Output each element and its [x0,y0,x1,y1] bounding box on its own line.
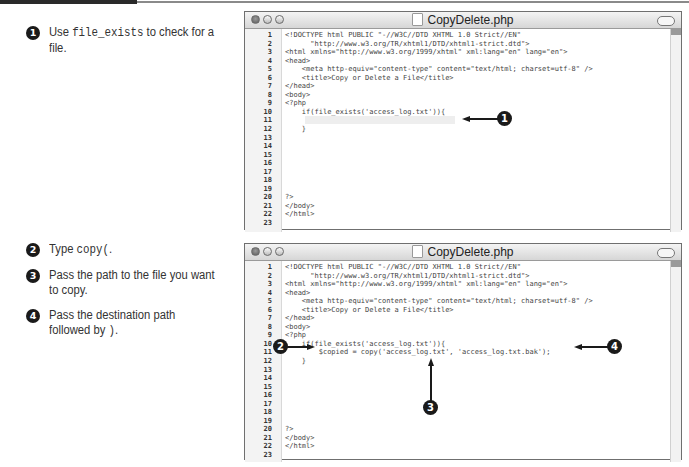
callout-4: 4 [607,339,622,354]
code-line: if(file_exists('access_log.txt')){ [285,108,445,117]
code-line: <meta http-equiv="content-type" content=… [285,297,593,306]
code-line: <!DOCTYPE html PUBLIC "-//W3C//DTD XHTML… [285,263,521,272]
step-text: Type copy(. [49,242,217,258]
document-icon [412,13,423,26]
code-line: } [285,125,306,134]
code-line: $copied = copy('access_log.txt', 'access… [285,348,551,357]
code-line: </head> [285,314,315,323]
code-line: <?php [285,99,306,108]
code-line: <!DOCTYPE html PUBLIC "-//W3C//DTD XHTML… [285,31,521,40]
code-line: </body> [285,434,315,443]
callout-2: 2 [273,339,288,354]
toolbar-toggle-button[interactable] [657,16,675,26]
document-icon [412,245,423,258]
code-line: <html xmlns="http://www.w3.org/1999/xhtm… [285,280,567,289]
callout-1: 1 [497,111,512,126]
callout-arrow [430,364,432,404]
code-line: </html> [285,442,315,451]
steps-top: 1 Use file_exists to check for a file. [26,25,236,65]
code-editor[interactable]: 1<!DOCTYPE html PUBLIC "-//W3C//DTD XHTM… [245,29,681,232]
code-line-highlight [305,116,455,124]
code-line: <?php [285,331,306,340]
arrow-head-icon [307,344,315,350]
code-editor[interactable]: 1<!DOCTYPE html PUBLIC "-//W3C//DTD XHTM… [245,261,681,462]
step-number: 1 [26,26,40,40]
window-title: CopyDelete.php [245,245,681,259]
code-line: ?> [285,425,293,434]
code-line: "http://www.w3.org/TR/xhtml1/DTD/xhtml1-… [285,272,529,281]
code-line: </head> [285,82,315,91]
toolbar-toggle-button[interactable] [657,248,675,258]
window-titlebar[interactable]: CopyDelete.php [245,12,681,29]
step-1: 1 Use file_exists to check for a file. [26,25,236,56]
step-3: 3 Pass the path to the file you want to … [26,268,236,298]
code-line: } [285,357,306,366]
window-title: CopyDelete.php [245,13,681,27]
step-number: 4 [26,309,40,323]
window-titlebar[interactable]: CopyDelete.php [245,244,681,261]
callout-arrow [580,346,610,348]
step-text: Pass the path to the file you want to co… [49,268,217,298]
code-line: <meta http-equiv="content-type" content=… [285,65,593,74]
code-line: <body> [285,323,310,332]
code-line: <title>Copy or Delete a File</title> [285,306,454,315]
code-line: <head> [285,289,310,298]
code-line: "http://www.w3.org/TR/xhtml1/DTD/xhtml1-… [285,40,529,49]
header-rule [137,1,689,3]
code-line: </html> [285,210,315,219]
code-line: <body> [285,91,310,100]
step-4: 4 Pass the destination path followed by … [26,308,236,339]
steps-bottom: 2 Type copy(. 3 Pass the path to the fil… [26,242,236,348]
step-text: Pass the destination path followed by ). [49,308,217,339]
callout-arrow [287,346,309,348]
code-line: <html xmlns="http://www.w3.org/1999/xhtm… [285,48,567,57]
header-bar [0,0,137,4]
step-number: 2 [26,243,40,257]
code-line: </body> [285,202,315,211]
step-2: 2 Type copy(. [26,242,236,258]
step-number: 3 [26,269,40,283]
step-text: Use file_exists to check for a file. [49,25,217,56]
code-line: <title>Copy or Delete a File</title> [285,74,454,83]
code-line: ?> [285,193,293,202]
callout-arrow [468,118,500,120]
callout-3: 3 [423,400,438,415]
code-line: <head> [285,57,310,66]
